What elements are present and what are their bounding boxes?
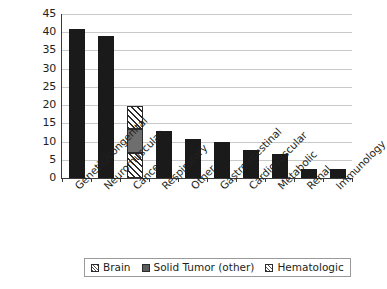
legend-item: Brain xyxy=(91,262,131,273)
chart-legend: BrainSolid Tumor (other)Hematologic xyxy=(84,258,351,277)
legend-label: Brain xyxy=(103,262,131,273)
legend-label: Solid Tumor (other) xyxy=(154,262,255,273)
legend-swatch-icon xyxy=(91,264,99,272)
x-axis-tick-label: Renal xyxy=(305,164,333,192)
legend-swatch-icon xyxy=(265,264,273,272)
legend-item: Hematologic xyxy=(265,262,343,273)
x-axis-tick-label: Immunology xyxy=(334,138,387,191)
legend-label: Hematologic xyxy=(277,262,343,273)
x-axis-tick-label: Other xyxy=(189,163,218,192)
legend-swatch-icon xyxy=(142,264,150,272)
legend-item: Solid Tumor (other) xyxy=(142,262,255,273)
